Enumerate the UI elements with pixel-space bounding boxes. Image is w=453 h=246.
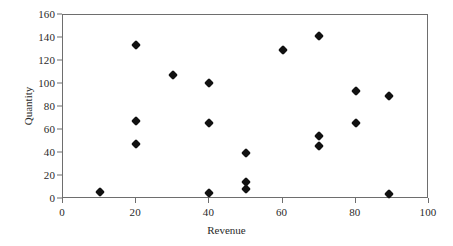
data-point (168, 70, 178, 80)
x-tick-label: 20 (130, 206, 141, 218)
y-axis-title: Quantity (22, 87, 34, 126)
y-tick-label: 100 (38, 77, 55, 89)
data-point (204, 188, 214, 198)
data-point (131, 116, 141, 126)
data-point (384, 189, 394, 199)
x-axis-title: Revenue (0, 224, 453, 236)
x-tick-label: 0 (59, 206, 65, 218)
x-tick-label: 100 (420, 206, 437, 218)
data-point (131, 40, 141, 50)
x-tick-mark (428, 198, 429, 203)
x-tick-mark (62, 198, 63, 203)
y-tick-label: 120 (38, 54, 55, 66)
x-tick-label: 80 (349, 206, 360, 218)
data-point (204, 118, 214, 128)
plot-area (62, 14, 428, 198)
y-tick-label: 160 (38, 8, 55, 20)
y-tick-label: 60 (44, 123, 55, 135)
y-tick-label: 40 (44, 146, 55, 158)
y-tick-label: 140 (38, 31, 55, 43)
data-point (241, 184, 251, 194)
x-tick-label: 40 (203, 206, 214, 218)
data-point (384, 91, 394, 101)
x-tick-label: 60 (276, 206, 287, 218)
data-point (351, 86, 361, 96)
x-tick-mark (135, 198, 136, 203)
data-point (204, 78, 214, 88)
y-tick-label: 0 (49, 192, 55, 204)
data-point (351, 118, 361, 128)
data-point (314, 141, 324, 151)
data-point (314, 31, 324, 41)
x-tick-mark (355, 198, 356, 203)
data-point (241, 148, 251, 158)
data-point (131, 139, 141, 149)
y-tick-label: 80 (44, 100, 55, 112)
x-tick-mark (282, 198, 283, 203)
data-point (278, 45, 288, 55)
data-point (314, 131, 324, 141)
y-tick-label: 20 (44, 169, 55, 181)
data-point (95, 187, 105, 197)
x-tick-mark (208, 198, 209, 203)
scatter-chart: Quantity 020406080100120140160 020406080… (0, 0, 453, 246)
